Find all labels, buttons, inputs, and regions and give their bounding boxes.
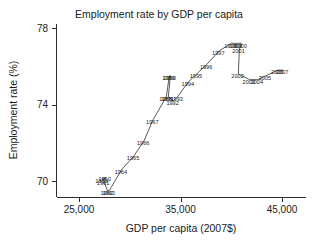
x-tick-label: 35,000 — [165, 204, 196, 215]
chart-title: Employment rate by GDP per capita — [75, 8, 243, 20]
data-point-label: 1995 — [190, 73, 202, 79]
x-tick-label: 45,000 — [267, 204, 298, 215]
data-point-label: 1996 — [200, 64, 212, 70]
y-tick-label: 70 — [37, 176, 49, 187]
x-axis-title: GDP per capita (2007$) — [126, 222, 237, 234]
data-point-label: 1961 — [97, 180, 109, 186]
data-point-label: 1964 — [115, 169, 127, 175]
y-tick-label: 74 — [37, 99, 49, 110]
data-point-label: 1967 — [146, 119, 158, 125]
data-point-label: 1965 — [127, 155, 139, 161]
data-point-label: 1990 — [163, 75, 175, 81]
data-point-label: 2005 — [259, 75, 271, 81]
chart-container: Employment rate by GDP per capita 707478… — [0, 0, 319, 246]
data-point-label: 2001 — [232, 48, 244, 54]
data-point-label: 1966 — [137, 140, 149, 146]
data-point-label: 1997 — [212, 50, 224, 56]
data-point-label: 1963 — [102, 190, 114, 196]
data-point-label: 2007 — [276, 69, 288, 75]
x-tick-label: 25,000 — [64, 204, 95, 215]
y-axis-title: Employment rate (%) — [7, 61, 19, 160]
data-point-label: 1994 — [182, 81, 194, 87]
employment-gdp-scatter-plot: Employment rate by GDP per capita 707478… — [0, 0, 319, 246]
data-point-label: 1993 — [170, 96, 182, 102]
y-tick-label: 78 — [37, 23, 49, 34]
